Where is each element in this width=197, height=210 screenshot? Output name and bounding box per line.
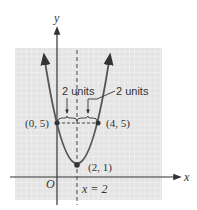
x-axis-label: x (183, 170, 190, 184)
point-left-label: (0, 5) (25, 117, 49, 130)
point-vertex (74, 162, 80, 168)
right-distance-label: 2 units (116, 85, 149, 97)
point-vertex-label: (2, 1) (88, 161, 112, 174)
parabola-diagram: x y O (0, 5) (4, 5) (2, 1) 2 units 2 uni… (0, 0, 197, 210)
origin-label: O (46, 177, 55, 191)
point-right (96, 121, 101, 126)
point-left (55, 121, 60, 126)
y-axis-label: y (53, 11, 60, 25)
axis-of-symmetry-label: x = 2 (81, 182, 107, 196)
point-right-label: (4, 5) (106, 117, 130, 130)
left-distance-label: 2 units (62, 85, 95, 97)
